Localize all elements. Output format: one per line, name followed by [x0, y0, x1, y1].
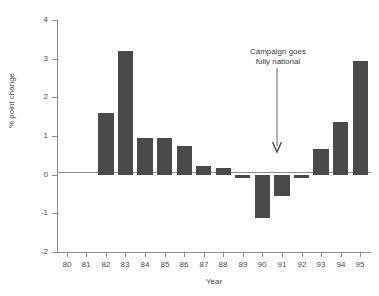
x-tick-mark — [67, 253, 68, 257]
x-tick-label: 93 — [310, 260, 332, 269]
y-tick-label: 3 — [22, 55, 48, 63]
x-tick-mark — [321, 253, 322, 257]
y-tick-label: -1 — [22, 209, 48, 217]
x-tick-mark — [262, 253, 263, 257]
bar-83[interactable] — [118, 51, 133, 175]
x-tick-label: 90 — [251, 260, 273, 269]
x-tick-mark — [302, 253, 303, 257]
y-tick-label: -2 — [22, 248, 48, 256]
bar-85[interactable] — [157, 138, 172, 175]
x-axis-title: Year — [57, 277, 371, 286]
bar-86[interactable] — [177, 146, 192, 175]
x-tick-mark — [165, 253, 166, 257]
x-axis-line — [57, 252, 371, 253]
bar-84[interactable] — [137, 138, 152, 175]
bar-92[interactable] — [294, 175, 309, 178]
bar-90[interactable] — [255, 175, 270, 219]
x-tick-mark — [106, 253, 107, 257]
bar-89[interactable] — [235, 175, 250, 178]
bar-95[interactable] — [353, 61, 368, 175]
x-tick-label: 83 — [114, 260, 136, 269]
y-tick-label: 0 — [22, 171, 48, 179]
x-tick-mark — [341, 253, 342, 257]
bar-82[interactable] — [98, 113, 113, 175]
x-tick-mark — [125, 253, 126, 257]
x-tick-label: 84 — [134, 260, 156, 269]
x-tick-mark — [86, 253, 87, 257]
x-tick-mark — [204, 253, 205, 257]
x-tick-mark — [282, 253, 283, 257]
y-tick-mark — [52, 252, 57, 253]
y-tick-label: 4 — [22, 16, 48, 24]
bar-93[interactable] — [313, 149, 328, 175]
x-tick-mark — [360, 253, 361, 257]
x-tick-mark — [184, 253, 185, 257]
x-tick-label: 88 — [212, 260, 234, 269]
x-tick-mark — [145, 253, 146, 257]
x-tick-mark — [243, 253, 244, 257]
bar-88[interactable] — [216, 168, 231, 175]
annotation-campaign-national: Campaign goes fully national — [228, 47, 328, 66]
x-tick-label: 91 — [271, 260, 293, 269]
y-axis-title: % point change — [7, 46, 16, 156]
annotation-line-2: fully national — [228, 57, 328, 67]
bar-91[interactable] — [274, 175, 289, 196]
bar-94[interactable] — [333, 122, 348, 174]
y-tick-label: 1 — [22, 132, 48, 140]
x-tick-label: 95 — [349, 260, 371, 269]
x-tick-label: 81 — [75, 260, 97, 269]
bar-chart: 43210-1-2 808182838485868788899091929394… — [0, 0, 379, 296]
annotation-line-1: Campaign goes — [228, 47, 328, 57]
down-arrow-icon — [262, 68, 292, 154]
y-tick-label: 2 — [22, 93, 48, 101]
x-tick-mark — [223, 253, 224, 257]
bar-87[interactable] — [196, 166, 211, 175]
x-tick-label: 86 — [173, 260, 195, 269]
